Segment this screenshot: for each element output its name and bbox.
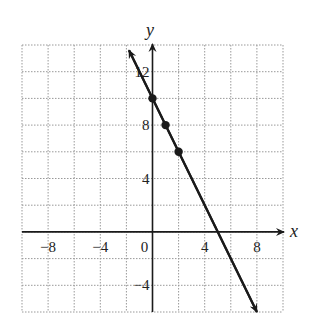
- data-point: [161, 121, 169, 129]
- x-tick-label: −4: [92, 239, 108, 255]
- y-tick-label: 4: [142, 171, 150, 187]
- data-point: [148, 94, 156, 102]
- x-tick-label: 0: [141, 239, 149, 255]
- x-axis-label: x: [289, 221, 298, 241]
- line-chart: −8−4048−44812 x y: [0, 0, 318, 332]
- x-tick-label: −8: [40, 239, 56, 255]
- y-tick-label: −4: [134, 277, 150, 293]
- y-axis-label: y: [144, 20, 154, 40]
- x-tick-label: 8: [253, 239, 261, 255]
- data-point: [174, 148, 182, 156]
- x-tick-label: 4: [201, 239, 209, 255]
- y-tick-label: 8: [142, 117, 150, 133]
